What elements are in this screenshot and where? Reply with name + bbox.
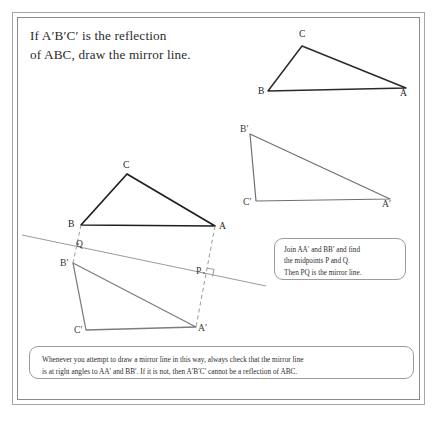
label-mid-A-prime: A′ [382, 199, 391, 209]
main-triangle-ABC-shape [81, 174, 215, 226]
callout-join-line3: Then PQ is the mirror line. [284, 268, 405, 279]
note-bottom-line1: Whenever you attempt to draw a mirror li… [42, 354, 413, 366]
callout-join-line2: the midpoints P and Q. [284, 256, 405, 267]
label-mid-C-prime: C′ [243, 197, 252, 207]
label-main-C-prime: C′ [74, 325, 83, 335]
triangle-ABC-top-outline [268, 46, 406, 91]
label-main-C: C [123, 160, 129, 170]
label-top-B: B [258, 86, 264, 96]
note-bottom-line2: is at right angles to AA′ and BB′. If it… [42, 366, 413, 378]
callout-join-line1: Join AA′ and BB′ and find [284, 245, 405, 256]
label-main-B-prime: B′ [60, 258, 69, 268]
right-angle-marker [207, 268, 214, 277]
page-root: If A′B′C′ is the reflection of ABC, draw… [0, 0, 442, 422]
main-triangle-ABC-outline [81, 174, 215, 226]
label-midpoint-P: P [196, 266, 201, 276]
callout-join-box: Join AA′ and BB′ and find the midpoints … [274, 238, 406, 280]
label-midpoint-Q: Q [76, 239, 83, 249]
right-angle-square [207, 268, 214, 277]
triangle-prime-shape [250, 134, 390, 201]
connector-AA-prime [196, 226, 215, 327]
label-top-C: C [299, 29, 305, 39]
label-main-B: B [68, 219, 74, 229]
label-top-A: A [400, 88, 407, 98]
main-triangle-prime-shape [73, 263, 196, 330]
note-bottom-box: Whenever you attempt to draw a mirror li… [29, 346, 414, 379]
main-triangle-prime-outline [73, 263, 196, 330]
mirror-line-PQ [22, 235, 266, 286]
triangle-ABC-top-shape [268, 46, 406, 91]
triangle-prime-outline [250, 134, 390, 201]
label-mid-B-prime: B′ [240, 124, 249, 134]
label-main-A: A [219, 221, 226, 231]
label-main-A-prime: A′ [198, 323, 207, 333]
midpoint-P-dot [203, 272, 205, 274]
